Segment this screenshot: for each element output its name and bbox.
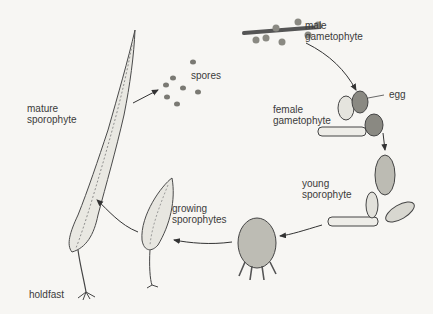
embryo-drawing bbox=[238, 218, 276, 280]
life-cycle-illustration bbox=[0, 0, 433, 314]
growing-sporophyte-drawing bbox=[142, 178, 173, 288]
label-line: mature bbox=[27, 103, 76, 114]
mature-sporophyte-drawing bbox=[69, 30, 135, 300]
label-line: young bbox=[302, 178, 351, 189]
spores-drawing bbox=[163, 60, 201, 107]
label-line: sporophyte bbox=[27, 114, 76, 125]
mature-sporophyte-label: mature sporophyte bbox=[27, 103, 76, 125]
male-gametophyte-label: male gametophyte bbox=[305, 20, 363, 42]
label-line: male bbox=[305, 20, 363, 31]
label-line: growing bbox=[172, 203, 226, 214]
cycle-arrows bbox=[97, 43, 385, 243]
label-line: sporophytes bbox=[172, 214, 226, 225]
label-line: gametophyte bbox=[305, 31, 363, 42]
label-line: gametophyte bbox=[273, 115, 331, 126]
egg-label: egg bbox=[389, 89, 406, 100]
label-line: sporophyte bbox=[302, 189, 351, 200]
growing-sporophytes-label: growing sporophytes bbox=[172, 203, 226, 225]
female-gametophyte-label: female gametophyte bbox=[273, 104, 331, 126]
young-sporophyte-label: young sporophyte bbox=[302, 178, 351, 200]
spores-label: spores bbox=[191, 70, 221, 81]
label-line: female bbox=[273, 104, 331, 115]
holdfast-label: holdfast bbox=[29, 289, 64, 300]
